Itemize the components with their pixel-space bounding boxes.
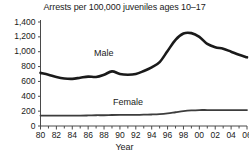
x-axis-title: Year [0,142,249,152]
x-tick-label: 06 [235,131,249,140]
series-line-male [41,33,248,79]
y-tick-label: 600 [0,77,36,86]
series-label-female: Female [113,97,143,107]
axes [38,20,247,130]
data-series [41,33,248,116]
y-tick-label: 1,000 [0,47,36,56]
y-tick-label: 1,400 [0,18,36,27]
series-line-female [41,110,248,116]
y-tick-label: 400 [0,92,36,101]
y-tick-label: 1,200 [0,32,36,41]
y-tick-label: 200 [0,107,36,116]
series-label-male: Male [94,48,114,58]
y-tick-label: 800 [0,62,36,71]
arrests-line-chart: Arrests per 100,000 juveniles ages 10–17… [0,0,249,160]
y-tick-label: 0 [0,122,36,131]
